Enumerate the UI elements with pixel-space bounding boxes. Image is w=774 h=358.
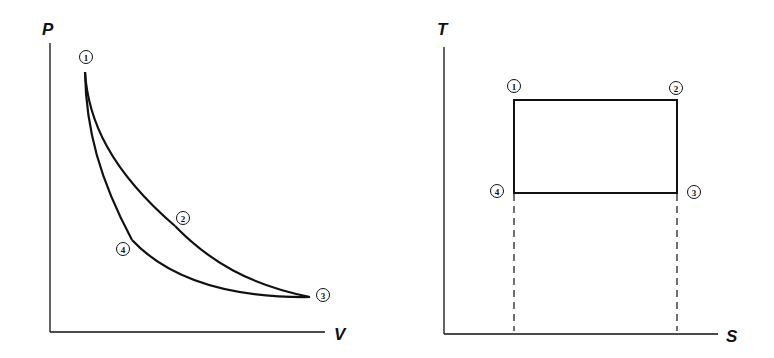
ts-point-1-label: 1: [512, 82, 517, 92]
process-3-4-curve: [132, 240, 310, 297]
ts-point-3-label: 3: [692, 188, 697, 198]
carnot-cycle-figure: P V 1 2 3 4 T S: [0, 0, 774, 358]
pv-point-1-marker: 1: [80, 51, 93, 64]
pv-point-3-marker: 3: [317, 289, 330, 302]
ts-point-2-label: 2: [674, 84, 679, 94]
t-axis-label: T: [437, 20, 449, 39]
ts-point-3-marker: 3: [688, 186, 701, 199]
process-4-1-curve: [85, 72, 132, 240]
ts-diagram: T S 1 2 3 4: [437, 20, 738, 346]
pv-point-3-label: 3: [321, 291, 326, 301]
p-axis-label: P: [42, 20, 54, 39]
s-axis-label: S: [726, 327, 738, 346]
ts-point-4-marker: 4: [491, 185, 504, 198]
pv-point-1-label: 1: [84, 53, 89, 63]
pv-point-4-marker: 4: [117, 243, 130, 256]
process-1-2-curve: [85, 72, 175, 226]
ts-point-4-label: 4: [495, 187, 500, 197]
ts-point-1-marker: 1: [508, 80, 521, 93]
v-axis-label: V: [334, 325, 347, 344]
ts-point-2-marker: 2: [670, 82, 683, 95]
pv-point-2-label: 2: [181, 214, 186, 224]
pv-point-4-label: 4: [121, 245, 126, 255]
carnot-cycle-rectangle: [514, 100, 677, 193]
process-2-3-curve: [175, 226, 310, 297]
pv-point-2-marker: 2: [177, 212, 190, 225]
pv-diagram: P V 1 2 3 4: [42, 20, 347, 344]
